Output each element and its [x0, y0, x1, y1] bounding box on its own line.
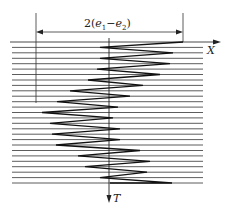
t-axis-arrow-icon [107, 195, 112, 203]
dimension-arrow-left-icon [36, 30, 43, 35]
t-axis-label: T [113, 193, 120, 204]
dimension-arrow-right-icon [176, 30, 183, 35]
x-axis-label: X [207, 45, 215, 56]
zigzag-diagram [0, 0, 228, 217]
dimension-label: 2(e1−e2) [84, 18, 131, 32]
diagram-canvas: 2(e1−e2) X T [0, 0, 228, 217]
